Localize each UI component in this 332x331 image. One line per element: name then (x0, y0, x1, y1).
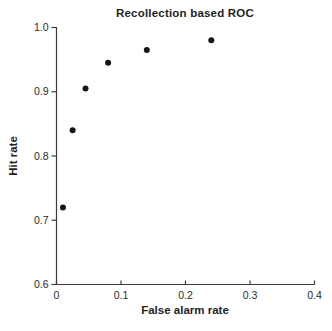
roc-figure: Recollection based ROC Hit rate 1.00.90.… (0, 0, 332, 331)
x-tick-label: 0 (54, 289, 60, 301)
data-point (83, 86, 89, 92)
data-point (105, 60, 111, 66)
data-point (144, 47, 150, 53)
x-tick-label: 0.1 (114, 289, 129, 301)
x-tick-label: 0.2 (178, 289, 193, 301)
y-tick-label: 0.8 (34, 150, 49, 162)
y-tick-label: 1.0 (34, 21, 49, 33)
y-tick-label: 0.7 (34, 214, 49, 226)
x-tick-label: 0.4 (307, 289, 322, 301)
y-tick-label: 0.6 (34, 278, 49, 290)
x-axis-title: False alarm rate (56, 304, 314, 316)
data-point (70, 127, 76, 133)
data-point (208, 37, 214, 43)
y-tick-label: 0.9 (34, 85, 49, 97)
data-point (60, 204, 66, 210)
scatter-plot-canvas: 1.00.90.80.70.600.10.20.30.4 (0, 0, 332, 331)
x-tick-label: 0.3 (243, 289, 258, 301)
